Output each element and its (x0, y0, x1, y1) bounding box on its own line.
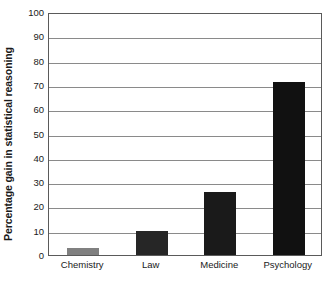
y-tick-label: 10 (16, 227, 44, 237)
bar-slot (49, 14, 118, 255)
y-axis-title: Percentage gain in statistical reasoning (0, 16, 16, 272)
bar-chart: Percentage gain in statistical reasoning… (0, 0, 336, 286)
y-tick-label: 70 (16, 81, 44, 91)
bar-slot (186, 14, 255, 255)
y-tick-label: 40 (16, 154, 44, 164)
y-tick-label: 60 (16, 105, 44, 115)
y-tick-label: 90 (16, 32, 44, 42)
bar-law[interactable] (136, 231, 168, 255)
y-tick-label: 20 (16, 202, 44, 212)
x-tick-label: Law (142, 259, 159, 271)
bars-layer (49, 14, 321, 255)
bar-slot (118, 14, 187, 255)
x-axis-tick-labels: ChemistryLawMedicinePsychology (48, 259, 322, 275)
y-tick-label: 80 (16, 57, 44, 67)
y-tick-label: 30 (16, 178, 44, 188)
x-tick-label: Psychology (263, 259, 312, 271)
y-tick-label: 100 (16, 8, 44, 18)
plot-area (48, 13, 322, 256)
bar-slot (255, 14, 324, 255)
y-tick-label: 50 (16, 130, 44, 140)
x-tick-label: Chemistry (61, 259, 104, 271)
bar-psychology[interactable] (273, 82, 305, 255)
x-tick-label: Medicine (200, 259, 238, 271)
y-tick-label: 0 (16, 251, 44, 261)
bar-chemistry[interactable] (67, 248, 99, 255)
bar-medicine[interactable] (204, 192, 236, 255)
y-axis-tick-labels: 1009080706050403020100 (16, 13, 44, 256)
